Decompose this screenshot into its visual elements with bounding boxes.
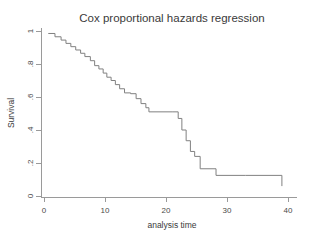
y-tick-label: .8: [26, 60, 35, 67]
chart-title: Cox proportional hazards regression: [79, 12, 264, 24]
chart-figure: Cox proportional hazards regression 0.2.…: [0, 0, 314, 246]
x-tick-label: 20: [162, 206, 171, 215]
y-tick-label: .4: [26, 126, 35, 133]
y-tick-label: .6: [26, 93, 35, 100]
x-axis-title: analysis time: [147, 220, 196, 230]
x-tick-label: 30: [223, 206, 232, 215]
survival-plot-svg: Cox proportional hazards regression 0.2.…: [0, 0, 314, 246]
figure-background: [0, 0, 314, 246]
y-axis-title: Survival: [6, 98, 16, 128]
x-tick-label: 40: [284, 206, 293, 215]
x-tick-label: 10: [101, 206, 110, 215]
y-tick-label: 1: [26, 28, 35, 33]
y-tick-label: 0: [26, 193, 35, 198]
x-tick-label: 0: [42, 206, 47, 215]
y-tick-label: .2: [26, 159, 35, 166]
